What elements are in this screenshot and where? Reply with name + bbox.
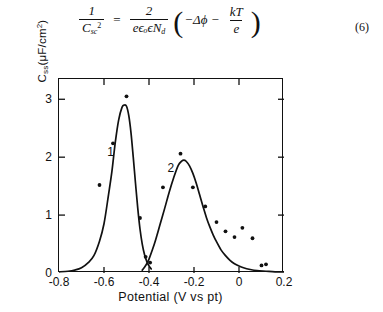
data-point [240, 226, 244, 230]
equation-number: (6) [355, 20, 369, 35]
x-axis-label: Potential (V vs pt) [58, 290, 283, 304]
x-axis-units: (V vs pt) [173, 290, 222, 304]
plot-area: 0123 -0.8-0.6-0.4-0.200.2 12 Css(μF/cm2) [58, 78, 283, 272]
lhs-denominator-sup: 2 [97, 20, 101, 29]
chart-figure: 0123 -0.8-0.6-0.4-0.200.2 12 Css(μF/cm2)… [0, 56, 383, 312]
y-axis-label: Css(μF/cm2) [35, 0, 50, 131]
y-axis-units-close: ) [36, 20, 48, 24]
data-point [203, 205, 207, 209]
x-tick-label: 0.2 [276, 275, 293, 289]
y-axis-units-exponent: 2 [35, 24, 44, 29]
rhs-denominator: eϵₒϵNd [130, 19, 169, 37]
data-point [144, 255, 148, 259]
lhs-fraction: 1 Csc2 [79, 4, 104, 36]
data-point [260, 264, 264, 268]
data-point [251, 236, 255, 240]
figure-page: 1 Csc2 = 2 eϵₒϵNd ( −Δϕ − kT e ) (6) [0, 0, 383, 312]
plot-svg [59, 79, 284, 273]
data-points-layer [98, 94, 268, 267]
lhs-numerator: 1 [85, 4, 98, 19]
y-axis-symbol: C [36, 74, 48, 83]
rhs-numerator: 2 [143, 4, 156, 19]
data-point [125, 94, 129, 98]
x-tick-label: 0 [236, 275, 243, 289]
equation-inner: −Δϕ − kT e [184, 5, 249, 36]
x-tick-label: -0.8 [49, 275, 70, 289]
y-tick-label: 1 [45, 208, 52, 222]
lhs-denominator-base: C [82, 20, 91, 35]
data-point [161, 185, 165, 189]
data-point [98, 183, 102, 187]
x-tick-label: -0.2 [184, 275, 205, 289]
rhs-denominator-text: eϵₒϵN [133, 20, 162, 35]
data-point [215, 220, 219, 224]
curve-number-label: 1 [107, 145, 114, 159]
term2-denominator: e [230, 20, 242, 36]
data-point [224, 229, 228, 233]
equation-term1: −Δϕ [184, 12, 207, 28]
x-tick-label: -0.6 [94, 275, 115, 289]
data-point [233, 235, 237, 239]
rhs-fraction: 2 eϵₒϵNd [130, 4, 169, 36]
paren-open: ( [173, 10, 183, 33]
term2-numerator: kT [227, 5, 246, 20]
data-point [138, 216, 142, 220]
rhs-denominator-sub: d [161, 27, 165, 36]
curve-2 [142, 160, 284, 272]
x-tick-label: -0.4 [139, 275, 160, 289]
data-point [148, 261, 152, 265]
equation-relation: = [113, 12, 120, 28]
y-tick-label: 2 [45, 150, 52, 164]
lhs-denominator: Csc2 [79, 19, 104, 37]
axis-ticks [59, 79, 284, 273]
data-point [191, 185, 195, 189]
equation-expression: 1 Csc2 = 2 eϵₒϵNd ( −Δϕ − kT e ) [75, 4, 262, 36]
y-axis-subscript: ss [41, 66, 50, 74]
y-axis-units: (μF/cm [36, 28, 48, 65]
data-point [264, 262, 268, 266]
curves-layer [59, 105, 284, 272]
curve-1 [59, 105, 151, 272]
paren-close: ) [251, 10, 261, 33]
equation-block: 1 Csc2 = 2 eϵₒϵNd ( −Δϕ − kT e ) (6) [0, 4, 383, 52]
curve-number-label: 2 [167, 161, 174, 175]
equation-term2-fraction: kT e [227, 5, 246, 36]
equation-operator: − [211, 12, 218, 28]
x-axis-name: Potential [118, 290, 169, 304]
data-point [179, 152, 183, 156]
